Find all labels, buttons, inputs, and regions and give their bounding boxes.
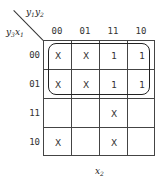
grouping-loop [48,43,150,95]
column-header-11: 11 [99,26,127,36]
cell-r11-c01 [72,99,100,128]
cell-r11-c00 [44,99,72,128]
column-header-01: 01 [71,26,99,36]
row-header-00: 00 [20,50,40,60]
row-header-10: 10 [20,137,40,147]
cell-r10-c00: X [44,128,72,157]
cell-r10-c01 [72,128,100,157]
column-header-10: 10 [127,26,155,36]
cell-r11-c10 [128,99,156,128]
row-variables-label: y3x1 [6,28,24,38]
cell-r11-c11: X [100,99,128,128]
row-header-11: 11 [20,108,40,118]
column-variables-label: y1y2 [26,8,44,18]
cell-r10-c10 [128,128,156,157]
cell-r10-c11: X [100,128,128,157]
row-header-01: 01 [20,79,40,89]
column-header-00: 00 [43,26,71,36]
x2-variable-label: x2 [95,167,104,177]
